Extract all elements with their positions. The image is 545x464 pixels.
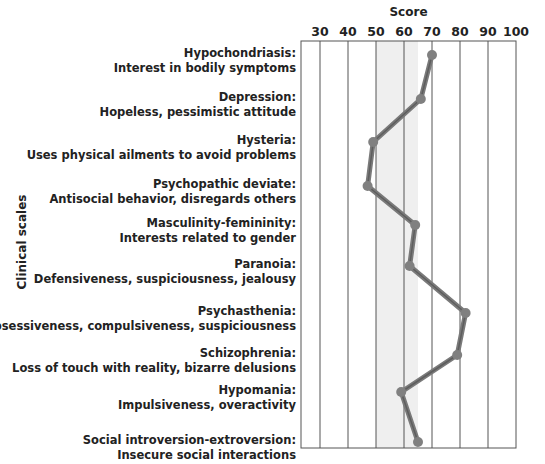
data-point [363,181,373,191]
data-point [405,261,415,271]
data-point [427,50,437,60]
data-point [461,308,471,318]
data-point [416,94,426,104]
data-point [396,387,406,397]
data-point [410,220,420,230]
profile-plot [0,0,545,464]
data-point [413,437,423,447]
data-point [368,137,378,147]
data-point [452,350,462,360]
